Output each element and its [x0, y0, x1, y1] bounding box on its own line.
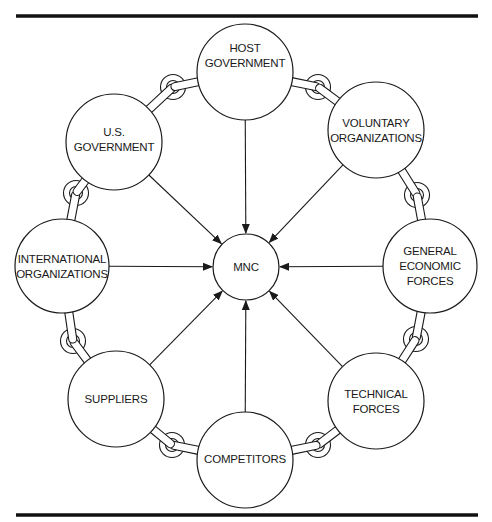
node-label: GOVERNMENT — [74, 141, 155, 153]
node-voluntary-organizations: VOLUNTARYORGANIZATIONS — [328, 82, 424, 178]
node-label: GOVERNMENT — [205, 57, 286, 69]
node-label: FORCES — [407, 275, 454, 287]
node-label: TECHNICAL — [344, 388, 408, 400]
node-technical-forces: TECHNICALFORCES — [328, 353, 424, 449]
arrow-host-government-to-mnc — [245, 120, 246, 233]
arrow-international-organizations-to-mnc — [109, 266, 212, 267]
arrow-us-government-to-mnc — [149, 175, 221, 244]
node-international-organizations: INTERNATIONALORGANIZATIONS — [15, 219, 109, 313]
node-label: ECONOMIC — [399, 260, 461, 272]
chain-link-suppliers-international-organizations — [61, 306, 95, 368]
node-host-government: HOSTGOVERNMENT — [197, 24, 293, 120]
node-circle — [197, 24, 293, 120]
node-circle — [15, 219, 109, 313]
node-label: ORGANIZATIONS — [16, 268, 108, 280]
node-label: COMPETITORS — [204, 453, 286, 465]
arrow-competitors-to-mnc — [245, 301, 246, 412]
arrow-voluntary-organizations-to-mnc — [269, 165, 343, 243]
node-label: HOST — [229, 42, 260, 54]
node-us-government: U.S.GOVERNMENT — [66, 94, 162, 190]
node-suppliers: SUPPLIERS — [68, 351, 164, 447]
node-mnc: MNC — [213, 234, 279, 300]
node-competitors: COMPETITORS — [197, 412, 293, 508]
node-circle — [328, 353, 424, 449]
arrow-general-economic-forces-to-mnc — [280, 266, 383, 267]
chain-link-us-government-host-government — [142, 75, 205, 117]
node-label: FORCES — [353, 403, 400, 415]
arrow-technical-forces-to-mnc — [270, 291, 343, 366]
node-label: ORGANIZATIONS — [330, 132, 422, 144]
node-label: SUPPLIERS — [85, 393, 148, 405]
node-label: INTERNATIONAL — [18, 253, 107, 265]
mnc-environment-diagram: HOSTGOVERNMENTVOLUNTARYORGANIZATIONSGENE… — [0, 0, 492, 522]
chain-link-voluntary-organizations-general-economic-forces — [395, 163, 429, 226]
node-circle — [328, 82, 424, 178]
node-label: VOLUNTARY — [342, 117, 410, 129]
arrow-suppliers-to-mnc — [150, 291, 222, 365]
node-label: MNC — [233, 261, 259, 273]
nodes-layer: HOSTGOVERNMENTVOLUNTARYORGANIZATIONSGENE… — [15, 24, 477, 508]
node-general-economic-forces: GENERALECONOMICFORCES — [383, 219, 477, 313]
node-label: GENERAL — [403, 245, 457, 257]
chain-link-general-economic-forces-technical-forces — [395, 306, 428, 368]
node-label: U.S. — [103, 126, 125, 138]
